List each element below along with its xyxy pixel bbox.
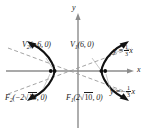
focus-left-coords-prefix: (−2 <box>13 93 24 102</box>
focus-left-coords-suffix: , 0) <box>37 93 47 102</box>
asymptote-neg-lhs: y <box>110 87 113 96</box>
asymptote-neg-sign: − <box>120 87 125 96</box>
fraction-one-third: 13 <box>124 44 129 57</box>
asymptote-neg-var: x <box>131 87 134 96</box>
vertex-right-label: V1(6, 0) <box>70 41 94 50</box>
asymptote-pos-lhs: y <box>113 46 116 55</box>
asymptote-positive-label: y =13x <box>113 44 133 57</box>
vertex-right-point <box>100 69 104 73</box>
asymptote-pos-equals: = <box>118 46 123 55</box>
focus-right-radicand: 10 <box>84 92 93 102</box>
vertex-left-coords: (−6, 0) <box>30 40 51 49</box>
focus-right-point <box>103 69 107 73</box>
asymptote-negative-label: y =−13x <box>110 85 135 98</box>
asymptote-pos-var: x <box>129 46 132 55</box>
fraction-numerator: 1 <box>124 44 129 51</box>
hyperbola-figure: y x V2(−6, 0) V1(6, 0) F2(−2√10, 0) F1(2… <box>0 0 158 131</box>
vertex-right-coords: (6, 0) <box>78 40 94 49</box>
fraction-denominator: 3 <box>124 51 129 57</box>
focus-left-point <box>49 69 53 73</box>
vertex-left-label: V2(−6, 0) <box>22 41 51 50</box>
focus-right-coords-suffix: , 0) <box>93 93 103 102</box>
x-axis-label: x <box>137 66 140 74</box>
y-axis-label: y <box>72 4 75 12</box>
focus-right-label: F1(2√10, 0) <box>66 94 102 103</box>
focus-left-label: F2(−2√10, 0) <box>5 94 47 103</box>
focus-left-radicand: 10 <box>28 92 37 102</box>
vertex-left-point <box>53 69 57 73</box>
figure-canvas <box>0 0 158 131</box>
